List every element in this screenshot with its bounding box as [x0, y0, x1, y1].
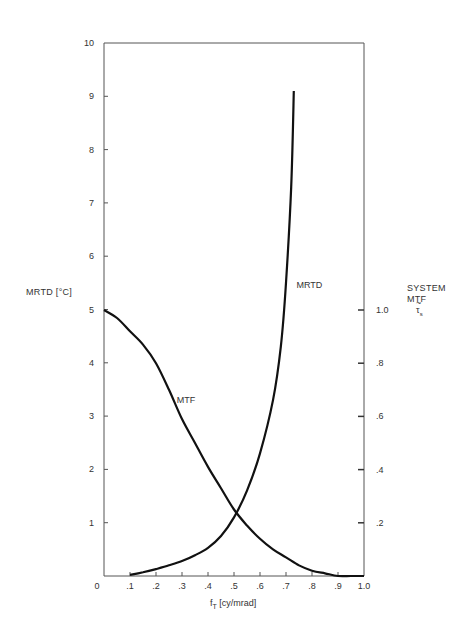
right-axis-title-line1: SYSTEM [407, 283, 446, 294]
y-tick-label-left: 8 [89, 145, 94, 155]
x-tick-label: .3 [178, 581, 186, 591]
mrtd-curve [130, 91, 294, 575]
x-tick-label: .7 [282, 581, 290, 591]
mtf-series-label: MTF [177, 395, 196, 405]
right-axis-title: SYSTEM MTF ~ τs [407, 283, 446, 320]
y-tick-label-right: .4 [376, 465, 384, 475]
mrtd-series-label: MRTD [296, 280, 322, 290]
axis-labels: 0.1.2.3.4.5.6.7.8.91.012345678910.2.4.6.… [84, 38, 389, 591]
plot-frame [104, 43, 364, 576]
left-axis-title: MRTD [°C] [26, 287, 72, 297]
right-axis-title-symbol: ~ τs [407, 305, 446, 320]
x-tick-label: .2 [152, 581, 160, 591]
y-tick-label-left: 10 [84, 38, 94, 48]
x-tick-label: .9 [334, 581, 342, 591]
y-tick-label-left: 9 [89, 91, 94, 101]
y-tick-label-right: .2 [376, 518, 384, 528]
y-tick-label-left: 5 [89, 305, 94, 315]
y-tick-label-right: 1.0 [376, 305, 389, 315]
axis-ticks [104, 96, 364, 576]
right-axis-title-line2: MTF [407, 294, 446, 305]
y-tick-label-right: .8 [376, 358, 384, 368]
y-tick-label-left: 4 [89, 358, 94, 368]
x-tick-label: 0 [94, 581, 99, 591]
y-tick-label-right: .6 [376, 411, 384, 421]
x-axis-title-sub: T [213, 603, 217, 610]
x-tick-label: .8 [308, 581, 316, 591]
x-tick-label: .1 [126, 581, 134, 591]
x-tick-label: .4 [204, 581, 212, 591]
axes-box [104, 43, 364, 576]
y-tick-label-left: 1 [89, 518, 94, 528]
data-curves [104, 91, 364, 576]
x-tick-label: .5 [230, 581, 238, 591]
x-axis-title-unit: [cy/mrad] [219, 598, 256, 608]
y-tick-label-left: 3 [89, 411, 94, 421]
y-tick-label-left: 7 [89, 198, 94, 208]
x-axis-title: fT [cy/mrad] [210, 598, 256, 610]
x-tick-label: .6 [256, 581, 264, 591]
x-tick-label: 1.0 [358, 581, 371, 591]
left-axis-title-text: MRTD [°C] [26, 287, 72, 297]
mtf-curve [104, 310, 364, 576]
y-tick-label-left: 6 [89, 251, 94, 261]
chart: 0.1.2.3.4.5.6.7.8.91.012345678910.2.4.6.… [0, 0, 471, 638]
y-tick-label-left: 2 [89, 464, 94, 474]
